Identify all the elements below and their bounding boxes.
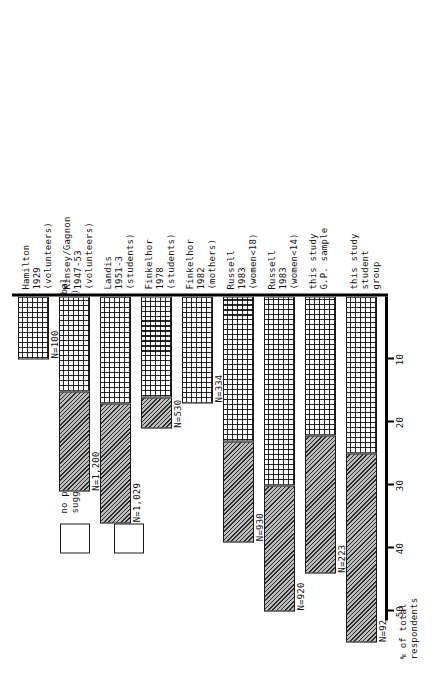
bar-segment-physical-contact	[59, 296, 90, 391]
category-label-8: this studyG.P. sample	[308, 179, 330, 289]
legend-swatch-hatch-icon	[60, 523, 90, 553]
axis-tick-50	[385, 609, 394, 611]
bar-value-label: N=92	[378, 619, 388, 641]
category-label-line1: Finkelhor	[144, 179, 155, 289]
category-label-line2: G.P. sample	[319, 179, 330, 289]
category-label-line2: student	[360, 179, 371, 289]
axis-tick-40	[385, 546, 394, 548]
bar-segment-no-physical-contact	[100, 403, 131, 523]
category-label-line1: Kinsey/Gagnon	[62, 179, 73, 289]
axis-tick-label-40: 40	[396, 542, 405, 553]
bar-row	[59, 296, 90, 491]
bar-segment-physical-contact	[100, 296, 131, 403]
category-label-line3: (mothers)	[207, 179, 218, 289]
bar-segment-no-physical-contact	[223, 441, 254, 542]
category-label-3: Landis1951-3(students)	[103, 179, 136, 289]
category-label-4: Finkelhor1978(students)	[144, 179, 177, 289]
bar-segment-physical-contact	[18, 296, 49, 359]
legend-swatch-grid-icon	[114, 523, 144, 553]
bar-segment-physical-contact	[264, 296, 295, 485]
category-label-line1: Hamilton	[21, 179, 32, 289]
bar-value-label: N=920	[296, 582, 306, 610]
chart-canvas: 50 40 30 20 10 % of total respondents no…	[0, 0, 436, 681]
bar-segment-no-physical-contact	[141, 397, 172, 429]
axis-tick-label-10: 10	[396, 353, 405, 364]
category-label-line3: (students)	[166, 179, 177, 289]
value-axis-line	[385, 296, 388, 620]
category-label-line2: 1947-53	[73, 179, 84, 289]
category-label-line3: (volunteers)	[84, 179, 95, 289]
bar-segment-physical-contact	[346, 296, 377, 454]
category-label-7: Russell1983(women<14)	[267, 179, 300, 289]
bar-row	[346, 296, 377, 643]
plot-area: 50 40 30 20 10 % of total respondents no…	[0, 0, 436, 681]
bar-segment-physical-contact	[182, 296, 213, 403]
bar-segment-no-physical-contact	[264, 485, 295, 611]
category-label-line1: this study	[308, 179, 319, 289]
axis-tick-label-20: 20	[396, 416, 405, 427]
bar-row	[223, 296, 254, 542]
bar-row	[264, 296, 295, 611]
category-label-2: Kinsey/Gagnon1947-53(volunteers)	[62, 179, 95, 289]
value-axis-title-line1: % of total	[398, 597, 409, 659]
bar-segment-physical-contact	[223, 296, 254, 441]
category-label-line1: Finkelhor	[185, 179, 196, 289]
bar-segment-no-physical-contact	[305, 435, 336, 574]
category-label-6: Russell1983(women<18)	[226, 179, 259, 289]
value-axis-title: % of total respondents	[398, 597, 420, 659]
value-axis-title-line2: respondents	[409, 597, 420, 659]
category-label-line2: 1929	[32, 179, 43, 289]
category-label-9: this studystudentgroup	[349, 179, 382, 289]
bar-row	[182, 296, 213, 403]
category-label-line2: 1951-3	[114, 179, 125, 289]
category-label-line2: 1978	[155, 179, 166, 289]
category-label-5: Finkelhor1982(mothers)	[185, 179, 218, 289]
bar-segment-physical-contact	[141, 296, 172, 397]
category-label-line1: Landis	[103, 179, 114, 289]
bar-row	[305, 296, 336, 573]
bar-value-label: N=1,029	[132, 482, 142, 521]
axis-tick-30	[385, 483, 394, 485]
category-label-line2: 1983	[237, 179, 248, 289]
bar-segment-physical-contact	[305, 296, 336, 435]
category-label-line3: (students)	[125, 179, 136, 289]
axis-tick-20	[385, 420, 394, 422]
axis-tick-label-30: 30	[396, 479, 405, 490]
category-label-line1: Russell	[226, 179, 237, 289]
category-label-line3: (women<18)	[248, 179, 259, 289]
category-label-line2: 1982	[196, 179, 207, 289]
category-label-line1: Russell	[267, 179, 278, 289]
bar-row	[100, 296, 131, 523]
bar-segment-no-physical-contact	[346, 454, 377, 643]
category-label-line3: group	[371, 179, 382, 289]
bar-segment-no-physical-contact	[59, 391, 90, 492]
axis-tick-10	[385, 357, 394, 359]
category-label-line3: (volunteers)	[43, 179, 54, 289]
category-label-line1: this study	[349, 179, 360, 289]
bar-row	[141, 296, 172, 428]
category-label-line3: (women<14)	[289, 179, 300, 289]
bar-row	[18, 296, 49, 359]
category-label-1: Hamilton1929(volunteers)	[21, 179, 54, 289]
category-label-line2: 1983	[278, 179, 289, 289]
